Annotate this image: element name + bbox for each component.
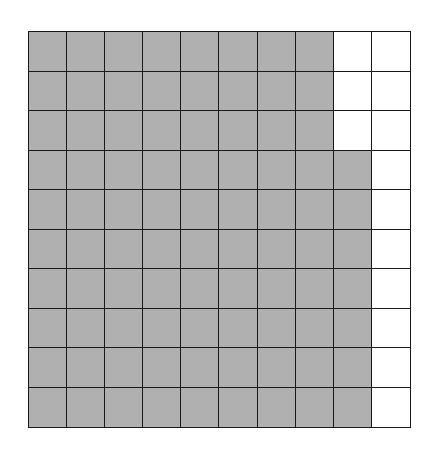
shaded-cell xyxy=(258,388,296,428)
shaded-cell xyxy=(143,111,181,151)
shaded-cell xyxy=(143,32,181,72)
shaded-cell xyxy=(67,151,105,191)
shaded-cell xyxy=(143,230,181,270)
shaded-cell xyxy=(219,348,257,388)
shaded-cell xyxy=(105,309,143,349)
shaded-cell xyxy=(296,72,334,112)
shaded-cell xyxy=(219,151,257,191)
shaded-cell xyxy=(105,269,143,309)
shaded-cell xyxy=(296,348,334,388)
shaded-cell xyxy=(29,309,67,349)
shaded-cell xyxy=(105,230,143,270)
shaded-cell xyxy=(334,151,372,191)
unshaded-cell xyxy=(372,388,410,428)
shaded-cell xyxy=(105,190,143,230)
shaded-cell xyxy=(258,151,296,191)
shaded-cell xyxy=(219,72,257,112)
shaded-cell xyxy=(143,72,181,112)
shaded-cell xyxy=(29,269,67,309)
shaded-cell xyxy=(105,32,143,72)
shaded-cell xyxy=(296,111,334,151)
shaded-cell xyxy=(181,32,219,72)
shaded-cell xyxy=(105,72,143,112)
shaded-cell xyxy=(67,32,105,72)
unshaded-cell xyxy=(334,72,372,112)
shaded-cell xyxy=(334,348,372,388)
shaded-cell xyxy=(219,32,257,72)
unshaded-cell xyxy=(334,111,372,151)
shaded-cell xyxy=(258,32,296,72)
shaded-cell xyxy=(181,388,219,428)
shaded-cell xyxy=(258,309,296,349)
shaded-cell xyxy=(29,190,67,230)
shaded-cell xyxy=(143,269,181,309)
unshaded-cell xyxy=(372,190,410,230)
unshaded-cell xyxy=(372,111,410,151)
shaded-cell xyxy=(219,388,257,428)
shaded-cell xyxy=(296,388,334,428)
shaded-cell xyxy=(29,151,67,191)
shaded-cell xyxy=(67,348,105,388)
shaded-cell xyxy=(67,111,105,151)
shaded-cell xyxy=(334,309,372,349)
shaded-cell xyxy=(29,388,67,428)
unshaded-cell xyxy=(372,309,410,349)
shaded-cell xyxy=(258,348,296,388)
shaded-cell xyxy=(67,269,105,309)
unshaded-cell xyxy=(334,32,372,72)
unshaded-cell xyxy=(372,32,410,72)
shaded-cell xyxy=(296,190,334,230)
shaded-cell xyxy=(334,230,372,270)
shaded-cell xyxy=(105,348,143,388)
shaded-cell xyxy=(296,309,334,349)
shaded-cell xyxy=(181,72,219,112)
shaded-cell xyxy=(143,151,181,191)
shaded-cell xyxy=(258,72,296,112)
shaded-cell xyxy=(29,111,67,151)
shaded-cell xyxy=(105,388,143,428)
unshaded-cell xyxy=(372,348,410,388)
shaded-cell xyxy=(219,269,257,309)
shaded-cell xyxy=(29,32,67,72)
unshaded-cell xyxy=(372,72,410,112)
shaded-cell xyxy=(181,230,219,270)
shaded-cell xyxy=(258,190,296,230)
shaded-cell xyxy=(334,190,372,230)
shaded-cell xyxy=(29,230,67,270)
shaded-cell xyxy=(181,269,219,309)
shaded-cell xyxy=(334,269,372,309)
shaded-cell xyxy=(143,388,181,428)
shaded-cell xyxy=(181,151,219,191)
shaded-cell xyxy=(219,230,257,270)
shaded-cell xyxy=(29,72,67,112)
unshaded-cell xyxy=(372,151,410,191)
unshaded-cell xyxy=(372,230,410,270)
shaded-cell xyxy=(334,388,372,428)
shaded-cell xyxy=(296,230,334,270)
shaded-cell xyxy=(67,309,105,349)
shaded-cell xyxy=(143,348,181,388)
shaded-cell xyxy=(143,190,181,230)
shaded-cell xyxy=(219,309,257,349)
shaded-cell xyxy=(143,309,181,349)
shaded-cell xyxy=(181,309,219,349)
shaded-cell xyxy=(258,269,296,309)
shaded-cell xyxy=(296,32,334,72)
shaded-cell xyxy=(29,348,67,388)
shaded-cell xyxy=(67,388,105,428)
shaded-cell xyxy=(105,151,143,191)
shaded-cell xyxy=(67,230,105,270)
shaded-cell xyxy=(258,111,296,151)
shaded-cell xyxy=(219,111,257,151)
shaded-cell xyxy=(181,111,219,151)
unshaded-cell xyxy=(372,269,410,309)
shaded-cell xyxy=(181,190,219,230)
shaded-cell xyxy=(67,190,105,230)
shaded-cell xyxy=(219,190,257,230)
shaded-cell xyxy=(296,151,334,191)
shaded-cell xyxy=(296,269,334,309)
hundred-grid xyxy=(28,31,411,428)
shaded-cell xyxy=(105,111,143,151)
shaded-cell xyxy=(67,72,105,112)
shaded-cell xyxy=(258,230,296,270)
